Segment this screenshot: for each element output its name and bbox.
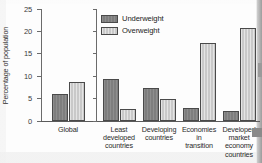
legend-item-underweight: Underweight [101,14,164,23]
bar-overweight-4 [240,28,256,121]
bar-overweight-1 [120,109,136,121]
panel2-tick-20 [93,31,97,32]
legend-swatch-underweight [101,15,118,23]
y-tick-label-20: 20 [24,26,32,35]
x-category-label-0: Global [45,126,91,134]
y-tick-5: 5 [37,98,41,99]
x-category-label-0-line-0: Global [45,126,91,134]
bar-underweight-3 [183,108,199,121]
legend-label-underweight: Underweight [122,14,164,23]
y-axis-label: Percentage of population [1,9,11,122]
y-tick-25: 25 [37,9,41,10]
y-tick-0: 0 [37,121,41,122]
y-tick-label-5: 5 [28,94,32,103]
chart-legend: Underweight Overweight [101,14,164,38]
bar-chart-figure: Percentage of population 0 5 10 15 20 25 [0,0,262,163]
y-tick-20: 20 [37,31,41,32]
y-tick-label-10: 10 [24,71,32,80]
panel2-tick-15 [93,53,97,54]
legend-swatch-overweight [101,27,118,35]
legend-label-overweight: Overweight [122,26,159,35]
bar-overweight-0 [69,82,85,121]
panel2-tick-0 [93,121,97,122]
x-category-label-2-line-1: countries [137,134,181,142]
x-category-label-1-line-2: countries [97,142,141,150]
bar-overweight-2 [160,99,176,121]
y-tick-label-15: 15 [24,49,32,58]
second-panel-axis-line [96,9,97,122]
bar-underweight-0 [52,94,68,121]
legend-item-overweight: Overweight [101,26,164,35]
x-category-label-3-line-2: transition [177,142,221,150]
bar-underweight-1 [103,79,119,121]
panel2-tick-10 [93,76,97,77]
y-tick-10: 10 [37,76,41,77]
panel2-tick-5 [93,98,97,99]
x-axis-baseline [41,121,260,122]
y-tick-label-25: 25 [24,5,32,14]
bar-underweight-2 [143,88,159,121]
x-axis-category-labels: GlobalLeastdevelopedcountriesDevelopingc… [41,126,262,163]
x-category-label-4: Developedmarketeconomycountries [216,126,262,159]
y-axis-line [41,9,42,122]
x-category-label-3: Economiesintransition [177,126,221,151]
x-category-label-4-line-3: countries [216,151,262,159]
x-category-label-1: Leastdevelopedcountries [97,126,141,151]
panel2-tick-25 [93,9,97,10]
x-category-label-2: Developingcountries [137,126,181,142]
y-tick-label-0: 0 [28,117,32,126]
bar-underweight-4 [223,111,239,121]
bar-overweight-3 [200,43,216,121]
y-tick-15: 15 [37,53,41,54]
